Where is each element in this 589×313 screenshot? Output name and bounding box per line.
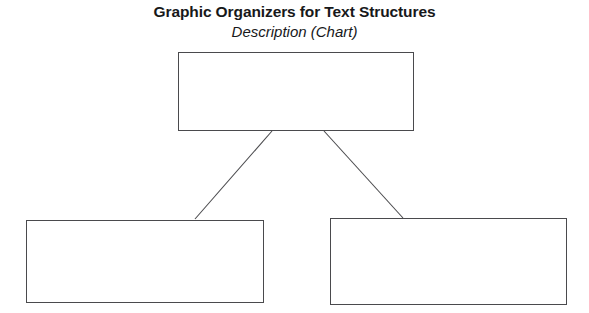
page-title: Graphic Organizers for Text Structures: [0, 0, 589, 21]
connector-top-to-left-line: [195, 131, 272, 219]
graphic-organizer-page: Graphic Organizers for Text Structures D…: [0, 0, 589, 313]
main-topic-box-text: [179, 53, 413, 66]
connector-top-to-right-line: [324, 131, 403, 218]
page-subtitle: Description (Chart): [0, 21, 589, 41]
detail-box-right-text: [331, 219, 566, 232]
detail-box-right[interactable]: [330, 218, 567, 305]
heading-block: Graphic Organizers for Text Structures D…: [0, 0, 589, 41]
main-topic-box[interactable]: [178, 52, 414, 131]
detail-box-left-text: [27, 221, 263, 234]
detail-box-left[interactable]: [26, 220, 264, 303]
